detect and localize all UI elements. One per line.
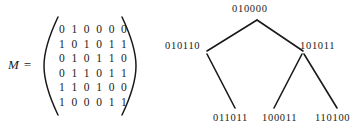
left-parenthesis-icon: [42, 16, 60, 116]
tree-node-left-child: 010110: [165, 40, 200, 51]
edge-right-child-to-leaf-middle: [274, 54, 302, 108]
matrix-row: 0 1 1 0 1 1: [59, 66, 121, 81]
matrix-equation: M = 0 1 0 0 0 0 1 0 1 0 1 1 0 1 0 1 1 0 …: [0, 0, 182, 131]
matrix-variable-label: M =: [8, 57, 32, 73]
right-parenthesis-icon: [120, 16, 138, 116]
matrix-row: 1 1 0 1 0 0: [59, 80, 121, 95]
edge-right-child-to-leaf-right: [304, 54, 337, 108]
edge-left-child-to-leaf-left: [207, 54, 235, 108]
tree-leaf-left: 011011: [213, 112, 248, 123]
matrix-row: 0 1 0 0 0 0: [59, 22, 121, 37]
tree-node-right-child: 101011: [300, 40, 335, 51]
matrix-row: 1 0 0 0 1 1: [59, 95, 121, 110]
tree-leaf-right: 110100: [315, 112, 350, 123]
matrix-bracket-group: 0 1 0 0 0 0 1 0 1 0 1 1 0 1 0 1 1 0 0 1 …: [42, 16, 138, 116]
matrix-row: 0 1 0 1 1 0: [59, 51, 121, 66]
matrix-row: 1 0 1 0 1 1: [59, 37, 121, 52]
tree-leaf-middle: 100011: [262, 112, 297, 123]
figure-matrix-and-tree: M = 0 1 0 0 0 0 1 0 1 0 1 1 0 1 0 1 1 0 …: [0, 0, 364, 131]
matrix-body: 0 1 0 0 0 0 1 0 1 0 1 1 0 1 0 1 1 0 0 1 …: [59, 22, 121, 110]
edge-root-to-right-child: [257, 20, 303, 51]
tree-diagram: 010000 010110 101011 011011 100011 11010…: [182, 0, 364, 131]
tree-node-root: 010000: [232, 3, 268, 14]
edge-root-to-left-child: [207, 20, 257, 51]
